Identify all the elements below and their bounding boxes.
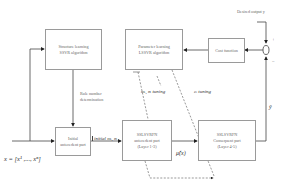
- initial-antecedent-line2: antecedent part: [60, 142, 85, 148]
- cost-function-label: Cost function: [215, 48, 238, 54]
- parameter-learning-block: Parameter learning LSSVR algorithm: [125, 29, 183, 70]
- sslsvrfn-antecedent-block: SSLSVRFN antecedent part (Layer 1-3): [122, 120, 172, 161]
- network-output-label: ŷ: [269, 104, 272, 110]
- rule-number-label-2: determination: [80, 97, 103, 102]
- membership-output-label: μ̂(x): [176, 150, 186, 156]
- initial-params-label: initial mᵢ, σᵢ: [92, 136, 117, 141]
- consequent-line3: (Layer 4-5): [217, 144, 236, 150]
- input-vector-label: x = [x¹ ,..., xⁿ]: [4, 155, 41, 162]
- plus-sign: +: [272, 37, 275, 42]
- desired-output-label: Desired output y: [237, 9, 265, 14]
- antecedent-tuning-label: mᵢ, σᵢ tuning: [141, 89, 165, 94]
- initial-antecedent-block: Initial antecedent part: [55, 127, 91, 156]
- parameter-learning-algorithm: LSSVR algorithm: [139, 50, 169, 56]
- sslsvrfn-consequent-block: SSLSVRFN Consequent part (Layer 4-5): [198, 120, 256, 161]
- cost-function-block: Cost function: [208, 38, 245, 63]
- structure-learning-block: Structure learning SSVR algorithm: [45, 29, 102, 70]
- rule-number-label: Rule number: [80, 91, 102, 96]
- structure-learning-algorithm: SSVR algorithm: [60, 50, 88, 56]
- consequent-tuning-label: cᵢ tuning: [194, 89, 211, 94]
- antecedent-line3: (Layer 1-3): [137, 144, 156, 150]
- minus-sign: −: [272, 59, 275, 64]
